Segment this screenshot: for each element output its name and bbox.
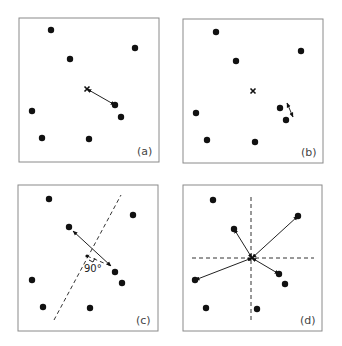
- double-arrow: [234, 229, 252, 258]
- angle-label: 90°: [84, 263, 102, 274]
- double-arrow: [287, 103, 293, 117]
- panel-b: (b): [183, 19, 323, 163]
- cross-marker-icon: [251, 89, 256, 94]
- data-point: [210, 197, 216, 203]
- data-point: [39, 135, 45, 141]
- data-point: [276, 271, 282, 277]
- data-point: [48, 27, 54, 33]
- data-point: [118, 114, 124, 120]
- data-point: [112, 102, 118, 108]
- panel-label: (d): [300, 314, 316, 327]
- diagram-canvas: (a)(b)90°(c)(d): [0, 0, 342, 346]
- data-point: [29, 277, 35, 283]
- panel-a: (a): [19, 18, 159, 162]
- double-arrow: [195, 258, 252, 280]
- data-point: [277, 105, 283, 111]
- cross-marker-icon: [85, 87, 90, 92]
- data-point: [40, 304, 46, 310]
- data-point: [119, 280, 125, 286]
- data-point: [213, 29, 219, 35]
- data-point: [298, 48, 304, 54]
- data-point: [87, 305, 93, 311]
- data-point: [130, 212, 136, 218]
- panel-label: (a): [137, 145, 152, 158]
- data-point: [112, 269, 118, 275]
- data-point: [295, 213, 301, 219]
- panel-c: 90°(c): [18, 185, 158, 331]
- data-point: [86, 136, 92, 142]
- data-point: [231, 226, 237, 232]
- data-point: [252, 139, 258, 145]
- data-point: [282, 281, 288, 287]
- data-point: [29, 108, 35, 114]
- data-point: [46, 196, 52, 202]
- data-point: [193, 110, 199, 116]
- double-arrow: [252, 216, 298, 258]
- panel-label: (b): [301, 146, 317, 159]
- data-point: [283, 117, 289, 123]
- data-point: [66, 224, 72, 230]
- panel-label: (c): [136, 314, 151, 327]
- data-point: [203, 305, 209, 311]
- data-point: [67, 56, 73, 62]
- double-arrow: [87, 89, 115, 105]
- data-point: [192, 277, 198, 283]
- panel-d: (d): [183, 185, 322, 331]
- data-point: [254, 306, 260, 312]
- data-point: [132, 45, 138, 51]
- double-arrow: [252, 258, 279, 274]
- data-point: [204, 137, 210, 143]
- data-point: [233, 58, 239, 64]
- double-arrow: [73, 231, 111, 266]
- foot-point: [85, 254, 88, 257]
